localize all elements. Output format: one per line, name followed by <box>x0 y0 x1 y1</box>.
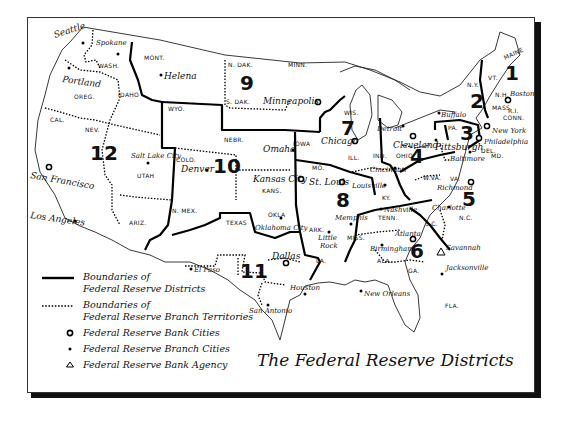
city-label-richmond: Richmond <box>436 184 473 192</box>
city-label-houston: Houston <box>289 284 320 292</box>
city-label-cincinnati: Cincinnati <box>370 166 407 174</box>
city-label-minneapolis: Minneapolis <box>262 96 319 106</box>
legend-dot-icon <box>69 348 72 351</box>
city-label-san-antonio: San Antonio <box>249 307 292 315</box>
city-label-buffalo: Buffalo <box>440 111 466 119</box>
district-number-11: 11 <box>240 259 268 283</box>
city-label-omaha: Omaha <box>263 144 295 154</box>
district-number-8: 8 <box>336 188 350 212</box>
city-label-baltimore: Baltimore <box>449 155 485 163</box>
city-label-little-rock-2: Rock <box>319 242 338 250</box>
branch-city-marker-portland <box>68 67 71 70</box>
state-label-ariz: ARIZ. <box>129 219 147 226</box>
state-label-wva: W.VA. <box>423 174 441 181</box>
state-label-nmex: N. MEX. <box>172 207 197 214</box>
federal-reserve-map: WASH. OREG. IDAHO CAL. NEV. MONT. WYO. U… <box>0 0 562 426</box>
district-boundary-9-10 <box>162 102 320 132</box>
branch-boundary-west <box>45 30 160 225</box>
city-label-detroit: Detroit <box>376 125 402 133</box>
city-label-louisville: Louisville <box>351 182 386 190</box>
district-number-12: 12 <box>90 141 118 165</box>
legend-label-districts-2: Federal Reserve Districts <box>82 283 206 294</box>
state-label-ind: IND. <box>373 152 387 159</box>
district-boundary-8-11 <box>300 232 320 280</box>
state-label-nebr: NEBR. <box>224 136 244 143</box>
state-label-okla: OKLA <box>268 211 286 218</box>
district-number-10: 10 <box>213 154 241 178</box>
state-label-la: LA. <box>316 257 326 264</box>
state-label-mo: MO. <box>312 164 324 171</box>
district-number-2: 2 <box>470 89 484 113</box>
branch-city-marker-el-paso <box>190 268 193 271</box>
legend-label-agency: Federal Reserve Bank Agency <box>82 359 228 370</box>
city-label-denver: Denver <box>180 164 215 174</box>
state-label-cal: CAL. <box>50 116 65 123</box>
map-title: The Federal Reserve Districts <box>257 350 514 370</box>
state-label-ny: N.Y. <box>467 81 479 88</box>
legend: Boundaries of Federal Reserve Districts … <box>42 271 253 370</box>
state-label-sc: S.C. <box>425 220 438 227</box>
city-label-memphis: Memphis <box>334 214 368 222</box>
city-label-birmingham: Birmingham <box>369 245 414 253</box>
legend-triangle-icon <box>67 362 74 367</box>
legend-label-districts-1: Boundaries of <box>82 271 151 282</box>
state-label-wis: WIS. <box>344 109 359 116</box>
branch-city-marker-seattle <box>82 42 85 45</box>
city-label-new-york: New York <box>491 127 526 135</box>
branch-city-marker-houston <box>304 293 307 296</box>
city-label-jacksonville: Jacksonville <box>444 264 488 272</box>
city-label-boston: Boston <box>509 90 535 98</box>
state-label-miss: MISS. <box>347 234 365 241</box>
city-label-seattle: Seattle <box>53 20 87 39</box>
branch-city-marker-helena <box>160 74 163 77</box>
city-label-dallas: Dallas <box>271 251 301 261</box>
city-label-salt-lake-city: Salt Lake City <box>131 152 182 160</box>
branch-city-marker-oklahoma-city <box>280 217 283 220</box>
branch-city-marker-jacksonville <box>441 273 444 276</box>
agency-marker-savannah <box>437 248 445 255</box>
city-label-charlotte: Charlotte <box>432 204 466 212</box>
legend-open-circle-icon <box>67 330 72 335</box>
city-label-nashville: Nashville <box>383 206 417 214</box>
state-label-pa: PA. <box>448 124 458 131</box>
legend-label-branches-1: Boundaries of <box>82 299 151 310</box>
legend-label-branches-2: Federal Reserve Branch Territories <box>82 311 253 322</box>
state-label-ga: GA. <box>408 267 419 274</box>
bank-city-marker-dallas <box>283 260 288 265</box>
district-number-1: 1 <box>505 61 519 85</box>
city-label-oklahoma-city: Oklahoma City <box>255 224 309 232</box>
state-label-iowa: IOWA <box>293 140 311 147</box>
city-label-spokane: Spokane <box>96 39 127 47</box>
city-label-pittsburgh: Pittsburgh <box>434 142 483 152</box>
bank-city-marker-cleveland <box>410 133 415 138</box>
city-label-kansas-city: Kansas City <box>252 174 308 184</box>
state-label-oreg: OREG. <box>74 93 95 100</box>
state-label-tenn: TENN. <box>377 214 398 221</box>
bank-city-marker-new-york <box>484 123 489 128</box>
state-label-maine: MAINE <box>502 46 524 61</box>
branch-city-marker-salt-lake-city <box>147 162 150 165</box>
state-label-wyo: WYO. <box>168 105 185 112</box>
city-label-st-louis: St. Louis <box>309 177 350 187</box>
bank-city-marker-boston <box>505 97 510 102</box>
city-label-atlanta: Atlanta <box>394 230 421 238</box>
district-number-9: 9 <box>240 71 254 95</box>
city-label-chicago: Chicago <box>321 136 359 146</box>
state-label-mont: MONT. <box>144 54 165 61</box>
state-label-conn: CONN. <box>503 114 524 121</box>
state-label-ark: ARK. <box>309 226 324 233</box>
city-label-philadelphia: Philadelphia <box>483 138 528 146</box>
city-label-portland: Portland <box>61 74 102 89</box>
legend-label-bank-cities: Federal Reserve Bank Cities <box>82 327 220 338</box>
state-label-minn: MINN. <box>288 61 307 68</box>
state-label-utah: UTAH <box>137 172 154 179</box>
city-label-savannah: Savannah <box>446 244 481 252</box>
state-label-wash: WASH. <box>98 62 119 69</box>
bank-city-marker-san-francisco <box>46 164 51 169</box>
state-label-ala: ALA. <box>377 257 392 264</box>
state-label-fla: FLA. <box>445 302 459 309</box>
city-label-el-paso: El Paso <box>193 266 220 274</box>
state-label-idaho: IDAHO <box>118 91 139 98</box>
bank-city-marker-philadelphia <box>476 135 481 140</box>
state-label-nev: NEV. <box>85 126 100 133</box>
